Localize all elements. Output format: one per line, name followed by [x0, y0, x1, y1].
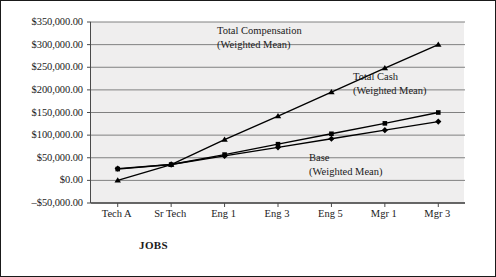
data-point-diamond — [382, 127, 388, 133]
y-axis: $350,000.00$300,000.00$250,000.00$200,00… — [1, 1, 87, 277]
y-tick-label: $200,000.00 — [32, 85, 83, 96]
y-tick-label: –$50,000.00 — [32, 198, 83, 209]
chart-figure: $350,000.00$300,000.00$250,000.00$200,00… — [0, 0, 496, 277]
y-tick-label: $0.00 — [60, 175, 83, 186]
annotation-base-line2: (Weighted Mean) — [309, 165, 383, 179]
y-tick-label: $300,000.00 — [32, 39, 83, 50]
x-tick-label: Eng 5 — [318, 209, 343, 220]
annotation-base: Base (Weighted Mean) — [309, 151, 383, 178]
y-tick-label: $250,000.00 — [32, 62, 83, 73]
annotation-total-cash: Total Cash (Weighted Mean) — [353, 70, 427, 97]
data-point-diamond — [435, 118, 441, 124]
annotation-total-compensation: Total Compensation (Weighted Mean) — [217, 24, 302, 51]
x-tick-label: Mgr 1 — [371, 209, 397, 220]
x-axis: Tech ASr TechEng 1Eng 3Eng 5Mgr 1Mgr 3 — [90, 206, 464, 226]
x-tick-label: Sr Tech — [154, 209, 186, 220]
data-point-square — [436, 110, 441, 115]
x-tick-label: Eng 1 — [211, 209, 236, 220]
y-tick-label: $350,000.00 — [32, 17, 83, 28]
data-point-triangle — [435, 41, 441, 46]
annotation-total-compensation-line2: (Weighted Mean) — [217, 38, 302, 52]
y-tick-label: $150,000.00 — [32, 107, 83, 118]
annotation-total-compensation-line1: Total Compensation — [217, 24, 302, 38]
annotation-base-line1: Base — [309, 151, 383, 165]
x-tick-label: Tech A — [102, 209, 132, 220]
data-point-square — [329, 131, 334, 136]
x-tick-label: Mgr 3 — [424, 209, 450, 220]
data-point-square — [383, 121, 388, 126]
y-tick-label: $100,000.00 — [32, 130, 83, 141]
y-tick-label: $50,000.00 — [37, 153, 83, 164]
x-tick-label: Eng 3 — [265, 209, 290, 220]
x-axis-title: JOBS — [139, 239, 168, 251]
annotation-total-cash-line2: (Weighted Mean) — [353, 84, 427, 98]
annotation-total-cash-line1: Total Cash — [353, 70, 427, 84]
plot-area: Total Compensation (Weighted Mean) Total… — [90, 22, 464, 203]
series-line-1 — [118, 113, 439, 170]
data-point-diamond — [328, 136, 334, 142]
